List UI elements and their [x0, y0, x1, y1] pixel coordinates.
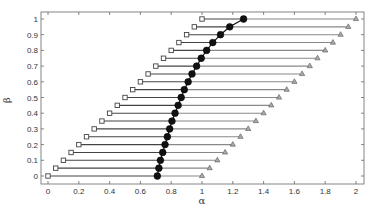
circle-marker [162, 141, 169, 148]
circle-marker [189, 71, 196, 78]
circle-marker [203, 47, 210, 54]
triangle-marker [246, 126, 251, 131]
square-marker [46, 174, 50, 178]
triangle-marker [230, 142, 235, 147]
x-tick-label: 0.2 [73, 187, 85, 196]
square-marker [123, 95, 127, 99]
x-tick-label: 1.6 [289, 187, 301, 196]
circle-marker [185, 78, 192, 85]
triangle-marker [323, 47, 328, 52]
square-marker [107, 111, 111, 115]
triangle-marker [315, 55, 320, 60]
y-tick-label: 0.9 [27, 31, 39, 40]
triangle-marker [307, 63, 312, 68]
y-tick-label: 0.1 [27, 156, 39, 165]
triangle-marker [292, 79, 297, 84]
triangle-marker [300, 71, 305, 76]
circle-marker [217, 31, 224, 38]
x-tick-label: 0.8 [166, 187, 178, 196]
square-marker [169, 48, 173, 52]
square-marker [184, 33, 188, 37]
triangle-marker [276, 95, 281, 100]
circle-marker [157, 157, 164, 164]
circle-marker [155, 165, 162, 172]
circle-marker [175, 102, 182, 109]
circle-marker [198, 55, 205, 62]
x-tick-label: 0.6 [135, 187, 147, 196]
circle-marker [169, 118, 176, 125]
y-tick-label: 0.6 [27, 78, 39, 87]
x-tick-label: 1.4 [258, 187, 270, 196]
square-marker [92, 127, 96, 131]
y-tick-label: 0.4 [27, 109, 39, 118]
triangle-marker [223, 149, 228, 154]
circle-marker [166, 125, 173, 132]
circle-marker [181, 86, 188, 93]
circle-marker [226, 23, 233, 30]
square-marker [192, 25, 196, 29]
x-tick-label: 0.4 [104, 187, 116, 196]
square-marker [100, 119, 104, 123]
triangle-marker [330, 40, 335, 45]
square-marker [77, 142, 81, 146]
triangle-marker [199, 173, 204, 178]
y-axis-label: β [1, 97, 12, 103]
square-marker [131, 87, 135, 91]
triangle-marker [253, 118, 258, 123]
circle-marker [209, 39, 216, 46]
y-tick-label: 1 [34, 15, 39, 24]
square-marker [138, 80, 142, 84]
circle-marker [178, 94, 185, 101]
circle-marker [164, 133, 171, 140]
square-marker [161, 56, 165, 60]
triangle-marker [269, 102, 274, 107]
x-tick-label: 1.2 [227, 187, 239, 196]
triangle-marker [207, 165, 212, 170]
triangle-marker [338, 32, 343, 37]
circle-marker [159, 149, 166, 156]
square-marker [146, 72, 150, 76]
circle-marker [172, 110, 179, 117]
triangle-marker [284, 87, 289, 92]
triangle-marker [346, 24, 351, 29]
plot-area [46, 16, 359, 180]
square-marker [154, 64, 158, 68]
triangle-marker [238, 134, 243, 139]
y-tick-label: 0.2 [27, 141, 39, 150]
square-marker [177, 40, 181, 44]
circle-marker [193, 63, 200, 70]
triangle-marker [215, 157, 220, 162]
triangle-marker [353, 16, 358, 21]
y-tick-label: 0.5 [27, 94, 39, 103]
circle-marker [240, 16, 247, 23]
square-marker [200, 17, 204, 21]
y-tick-label: 0 [34, 172, 39, 181]
chart: 00.20.40.60.811.21.41.61.82 00.10.20.30.… [0, 0, 384, 214]
square-marker [61, 158, 65, 162]
triangle-marker [261, 110, 266, 115]
x-tick-label: 2 [354, 187, 359, 196]
circle-marker [154, 173, 161, 180]
y-tick-label: 0.7 [27, 62, 39, 71]
y-tick-label: 0.8 [27, 46, 39, 55]
square-marker [115, 103, 119, 107]
x-axis-label: α [199, 195, 206, 206]
square-marker [84, 135, 88, 139]
square-marker [54, 166, 58, 170]
x-tick-label: 1.8 [320, 187, 332, 196]
x-tick-label: 0 [46, 187, 51, 196]
square-marker [69, 150, 73, 154]
y-tick-label: 0.3 [27, 125, 39, 134]
